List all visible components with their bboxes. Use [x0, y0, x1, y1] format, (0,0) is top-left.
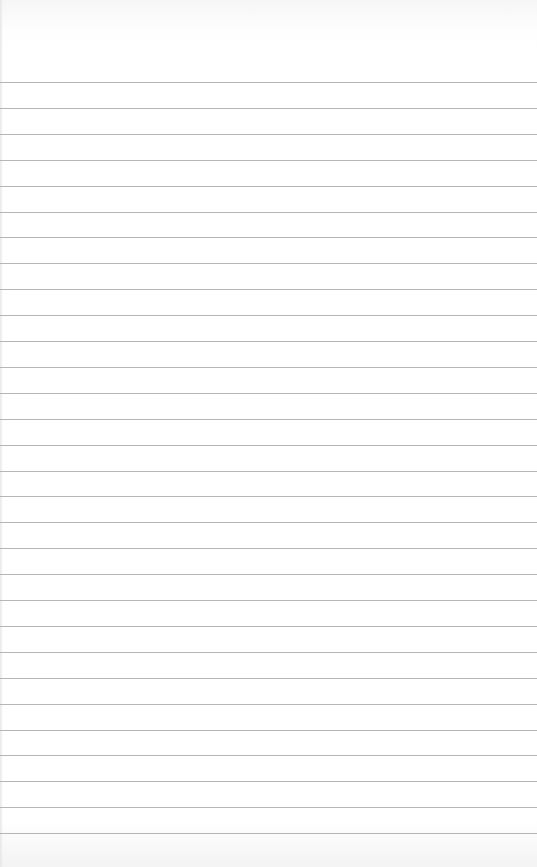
- ruled-line: [0, 471, 537, 472]
- ruled-line: [0, 263, 537, 264]
- ruled-line: [0, 367, 537, 368]
- ruled-line: [0, 522, 537, 523]
- ruled-line: [0, 160, 537, 161]
- paper-edge-shadow: [0, 0, 3, 867]
- ruled-line: [0, 393, 537, 394]
- ruled-line: [0, 237, 537, 238]
- ruled-line: [0, 781, 537, 782]
- ruled-line: [0, 82, 537, 83]
- lined-paper: [0, 0, 537, 867]
- ruled-line: [0, 445, 537, 446]
- ruled-line: [0, 548, 537, 549]
- ruled-line: [0, 419, 537, 420]
- ruled-line: [0, 652, 537, 653]
- ruled-line: [0, 496, 537, 497]
- ruled-line: [0, 600, 537, 601]
- ruled-line: [0, 315, 537, 316]
- ruled-line: [0, 574, 537, 575]
- ruled-line: [0, 626, 537, 627]
- ruled-line: [0, 134, 537, 135]
- ruled-line: [0, 212, 537, 213]
- ruled-line: [0, 730, 537, 731]
- ruled-line: [0, 807, 537, 808]
- ruled-line: [0, 341, 537, 342]
- ruled-line: [0, 289, 537, 290]
- ruled-line: [0, 108, 537, 109]
- ruled-line: [0, 186, 537, 187]
- ruled-line: [0, 833, 537, 834]
- ruled-line: [0, 755, 537, 756]
- ruled-line: [0, 704, 537, 705]
- ruled-line: [0, 678, 537, 679]
